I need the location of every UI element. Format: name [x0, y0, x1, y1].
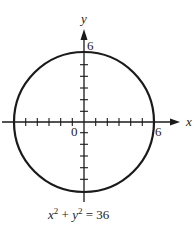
- x-axis-label: x: [185, 114, 192, 129]
- origin-label: 0: [71, 124, 78, 139]
- circle-graph: y x 6 6 0 x2 + y2 = 36: [0, 0, 194, 228]
- y-max-tick-label: 6: [87, 38, 94, 53]
- y-axis: [80, 29, 88, 202]
- equation-caption: x2 + y2 = 36: [47, 206, 110, 222]
- eq-plus: +: [58, 207, 72, 222]
- y-axis-label: y: [79, 11, 87, 26]
- x-axis-arrow-icon: [170, 119, 180, 126]
- x-max-tick-label: 6: [155, 124, 162, 139]
- eq-equals: = 36: [82, 207, 109, 222]
